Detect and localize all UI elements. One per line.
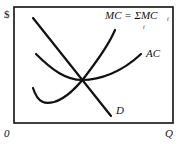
x-axis-label: Q xyxy=(165,127,173,139)
mc-label-subscript-sum: i xyxy=(143,24,145,30)
cost-curve-diagram: $ 0 Q AC D MC = ΣMC i i xyxy=(0,0,182,144)
mc-label-text: MC = ΣMC xyxy=(104,9,158,21)
ac-label: AC xyxy=(145,47,161,59)
y-axis-label: $ xyxy=(4,8,10,20)
mc-curve xyxy=(33,30,115,103)
mc-label: MC = ΣMC i i xyxy=(104,9,169,30)
d-label: D xyxy=(115,104,124,116)
ac-curve xyxy=(36,54,141,80)
mc-label-subscript-term: i xyxy=(167,16,169,22)
origin-label: 0 xyxy=(4,127,10,139)
demand-curve xyxy=(33,18,111,116)
